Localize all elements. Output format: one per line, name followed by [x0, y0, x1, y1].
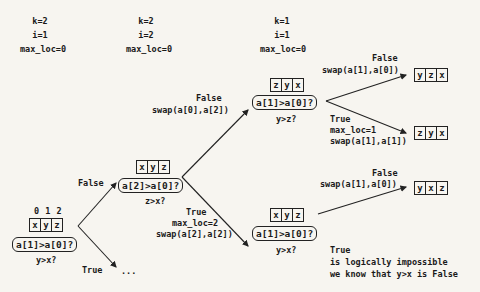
cell: x — [137, 161, 147, 173]
cell: y — [415, 182, 425, 194]
cell: x — [271, 209, 281, 221]
root-question: y>x? — [36, 255, 56, 265]
state-2-k: k=2 — [126, 16, 166, 26]
level2-true-action1: max_loc=2 — [172, 218, 218, 228]
upper-true-result: z y x — [414, 126, 448, 140]
cell: z — [425, 69, 436, 81]
level2-array: x y z — [136, 160, 170, 174]
cell: x — [436, 127, 447, 139]
cell: y — [415, 69, 425, 81]
upper-false-action: swap(a[1],a[0]) — [322, 65, 399, 75]
root-true-target: ... — [121, 266, 136, 276]
level2-condition: a[2]>a[0]? — [118, 178, 183, 193]
lower-true-note1: is logically impossible — [330, 257, 448, 267]
lower-array: x y z — [270, 208, 304, 222]
level2-false-action: swap(a[0],a[2]) — [152, 105, 229, 115]
upper-true-action1: max_loc=1 — [330, 125, 376, 135]
state-3-k: k=1 — [262, 16, 302, 26]
root-true-label: True — [82, 265, 102, 275]
root-array: x y z — [29, 218, 63, 232]
lower-false-result: y x z — [414, 181, 448, 195]
cell: x — [292, 79, 303, 91]
cell: y — [281, 209, 292, 221]
cell: z — [415, 127, 425, 139]
upper-array: z y x — [270, 78, 304, 92]
cell: x — [436, 69, 447, 81]
state-3-maxloc: max_loc=0 — [260, 44, 306, 54]
cell: z — [271, 79, 281, 91]
state-1-i: i=1 — [20, 30, 60, 40]
upper-false-result: y z x — [414, 68, 448, 82]
upper-false-label: False — [372, 53, 398, 63]
state-1-maxloc: max_loc=0 — [20, 44, 66, 54]
lower-true-label: True — [330, 245, 350, 255]
lower-condition: a[1]>a[0]? — [252, 226, 317, 241]
level2-question: z>x? — [145, 196, 165, 206]
upper-question: y>z? — [276, 114, 296, 124]
cell: y — [425, 127, 436, 139]
root-condition: a[1]>a[0]? — [12, 237, 77, 252]
cell: z — [51, 219, 62, 231]
level2-true-action2: swap(a[2],a[2]) — [156, 229, 233, 239]
cell: y — [147, 161, 158, 173]
cell: x — [425, 182, 436, 194]
lower-false-action: swap(a[1],a[0]) — [320, 179, 397, 189]
state-2-maxloc: max_loc=0 — [126, 44, 172, 54]
cell: z — [436, 182, 447, 194]
upper-condition: a[1]>a[0]? — [252, 95, 317, 110]
level2-false-label: False — [196, 93, 222, 103]
state-1-k: k=2 — [20, 16, 60, 26]
cell: z — [292, 209, 303, 221]
cell: y — [281, 79, 292, 91]
cell: z — [158, 161, 169, 173]
lower-question: y>x? — [276, 245, 296, 255]
lower-true-note2: we know that y>x is False — [330, 269, 458, 279]
cell: y — [40, 219, 51, 231]
upper-true-action2: swap(a[1],a[1]) — [330, 136, 407, 146]
root-indices: 0 1 2 — [34, 206, 62, 216]
upper-true-label: True — [330, 114, 350, 124]
state-2-i: i=2 — [126, 30, 166, 40]
lower-false-label: False — [372, 168, 398, 178]
state-3-i: i=1 — [262, 30, 302, 40]
level2-edge-label: False — [78, 178, 104, 188]
level2-true-label: True — [186, 207, 206, 217]
cell: x — [30, 219, 40, 231]
